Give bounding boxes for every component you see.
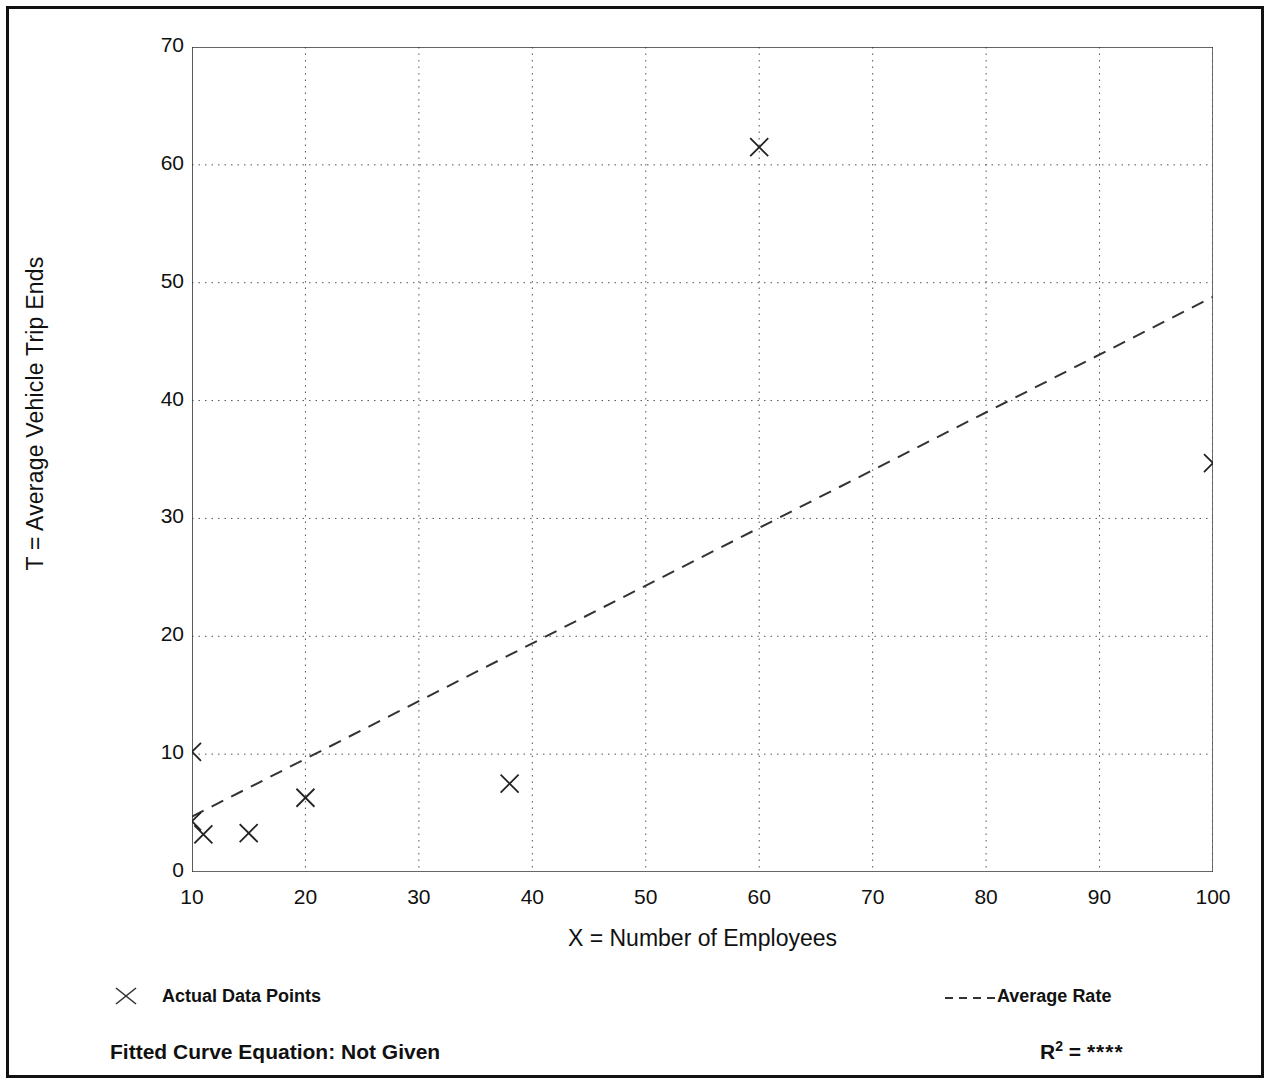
x-tick-label: 90 xyxy=(1070,885,1130,909)
data-point-marker xyxy=(240,824,258,842)
x-tick-label: 50 xyxy=(616,885,676,909)
data-point-marker xyxy=(192,743,201,761)
r-squared-exponent: 2 xyxy=(1055,1038,1063,1054)
data-point-marker xyxy=(1204,454,1213,472)
axis-lines xyxy=(192,47,1213,872)
data-point-markers xyxy=(192,138,1213,843)
x-tick-label: 70 xyxy=(843,885,903,909)
dashed-line-icon xyxy=(945,985,979,1007)
y-axis-title: T = Average Vehicle Trip Ends xyxy=(22,134,49,694)
average-rate-trend-line xyxy=(192,297,1213,817)
r-squared-equals: = xyxy=(1063,1040,1087,1063)
chart-figure: T = Average Vehicle Trip Ends X = Number… xyxy=(0,0,1277,1090)
y-tick-label: 10 xyxy=(124,740,184,764)
y-tick-label: 0 xyxy=(124,858,184,882)
y-tick-label: 40 xyxy=(124,387,184,411)
x-tick-label: 100 xyxy=(1183,885,1243,909)
data-point-marker xyxy=(194,825,212,843)
y-tick-label: 70 xyxy=(124,33,184,57)
grid-lines xyxy=(192,47,1213,872)
x-tick-label: 10 xyxy=(162,885,222,909)
y-tick-label: 60 xyxy=(124,151,184,175)
data-point-marker xyxy=(501,775,519,793)
x-marker-icon xyxy=(110,985,144,1007)
legend-label-actual-data-points: Actual Data Points xyxy=(162,986,321,1007)
x-tick-label: 80 xyxy=(956,885,1016,909)
r-squared-letter: R xyxy=(1040,1040,1055,1063)
legend-item-actual-data-points: Actual Data Points xyxy=(110,985,321,1007)
x-axis-title: X = Number of Employees xyxy=(192,925,1213,952)
plot-area xyxy=(192,47,1213,872)
x-tick-label: 60 xyxy=(729,885,789,909)
r-squared-value: **** xyxy=(1087,1040,1124,1063)
legend-label-average-rate: Average Rate xyxy=(997,986,1111,1007)
y-tick-label: 20 xyxy=(124,622,184,646)
plot-canvas xyxy=(192,47,1213,872)
legend-item-average-rate: Average Rate xyxy=(945,985,1111,1007)
r-squared-text: R2 = **** xyxy=(1040,1038,1124,1064)
tick-marks xyxy=(192,47,1213,872)
data-point-marker xyxy=(750,138,768,156)
data-point-marker xyxy=(296,789,314,807)
y-tick-label: 50 xyxy=(124,269,184,293)
x-tick-label: 40 xyxy=(502,885,562,909)
x-tick-label: 30 xyxy=(389,885,449,909)
y-tick-label: 30 xyxy=(124,504,184,528)
fitted-curve-equation-text: Fitted Curve Equation: Not Given xyxy=(110,1040,440,1064)
x-tick-label: 20 xyxy=(275,885,335,909)
